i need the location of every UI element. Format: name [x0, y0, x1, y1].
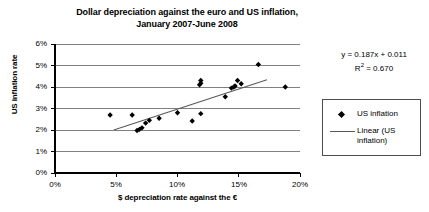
legend-entry-us-inflation[interactable]: US inflation [329, 109, 398, 119]
diamond-marker-icon [329, 109, 357, 119]
y-axis-title: US inflation rate [10, 40, 19, 130]
x-tick-label-20: 20% [287, 180, 313, 189]
x-tick-marks [55, 173, 300, 177]
x-tick-label-5: 5% [103, 180, 129, 189]
regression-annotation: y = 0.187x + 0.011 R2 = 0.670 [324, 49, 424, 74]
y-tick-label-3: 3% [25, 104, 47, 113]
y-tick-label-6: 6% [25, 39, 47, 48]
data-point [198, 111, 203, 116]
y-tick-label-0: 0% [25, 168, 47, 177]
r-squared-value: = 0.670 [364, 64, 393, 73]
x-tick-label-10: 10% [164, 180, 190, 189]
legend-entry-linear-trend[interactable]: Linear (US inflation) [329, 126, 395, 146]
y-tick-label-2: 2% [25, 125, 47, 134]
y-tick-label-5: 5% [25, 61, 47, 70]
chart-container: Dollar depreciation against the euro and… [0, 0, 429, 212]
data-point [175, 110, 180, 115]
data-point [223, 94, 228, 99]
legend-label-linear-trend: Linear (US inflation) [357, 126, 395, 146]
data-point [107, 112, 112, 117]
chart-legend: US inflation Linear (US inflation) [322, 99, 421, 156]
line-marker-icon [329, 126, 357, 136]
y-tick-label-4: 4% [25, 82, 47, 91]
data-point [283, 84, 288, 89]
x-tick-label-0: 0% [42, 180, 68, 189]
data-point [129, 112, 134, 117]
data-point [235, 78, 240, 83]
data-point [256, 62, 261, 67]
data-point [239, 81, 244, 86]
x-tick-label-15: 15% [226, 180, 252, 189]
x-axis-title: $ depreciation rate against the € [45, 193, 310, 202]
regression-equation: y = 0.187x + 0.011 [324, 49, 424, 60]
scatter-markers [107, 62, 288, 133]
data-point [190, 118, 195, 123]
r-squared: R2 = 0.670 [324, 60, 424, 74]
y-tick-label-1: 1% [25, 147, 47, 156]
gridlines [55, 44, 300, 152]
legend-label-us-inflation: US inflation [357, 109, 398, 119]
